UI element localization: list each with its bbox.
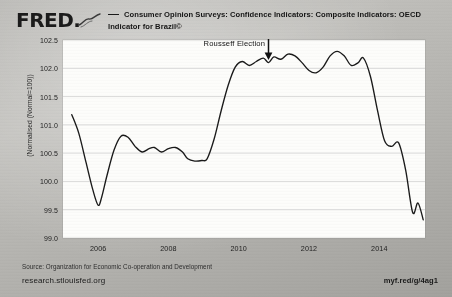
- short-url[interactable]: myf.red/g/4ag1: [384, 276, 438, 285]
- x-axis-tick-labels: 20062008201020122014: [0, 244, 452, 258]
- fred-chart-screenshot: FRED. Consumer Opinion Surveys: Confiden…: [0, 0, 452, 297]
- x-tick-label: 2012: [301, 244, 317, 253]
- horizontal-gridlines: [63, 40, 425, 238]
- x-tick-label: 2014: [371, 244, 387, 253]
- x-tick-label: 2008: [160, 244, 176, 253]
- series-line-brazil-confidence: [72, 51, 423, 220]
- annotation-label-rousseff-election: Rousseff Election: [204, 39, 266, 48]
- x-tick-label: 2006: [90, 244, 106, 253]
- line-chart-squiggle-icon: [78, 12, 102, 28]
- legend-series-label: Consumer Opinion Surveys: Confidence Ind…: [108, 10, 421, 31]
- source-note: Source: Organization for Economic Co-ope…: [22, 263, 212, 270]
- series-canvas: [63, 40, 425, 238]
- y-tick-label: 100.0: [24, 178, 58, 185]
- y-tick-label: 99.0: [24, 235, 58, 242]
- x-tick-label: 2010: [231, 244, 247, 253]
- site-url[interactable]: research.stlouisfed.org: [22, 276, 105, 285]
- y-tick-label: 100.5: [24, 150, 58, 157]
- legend-line-marker: [108, 14, 119, 15]
- y-tick-label: 102.5: [24, 37, 58, 44]
- down-arrow-icon: [264, 39, 273, 61]
- y-tick-label: 101.0: [24, 121, 58, 128]
- y-tick-label: 99.5: [24, 206, 58, 213]
- plot-area: [63, 40, 425, 238]
- y-tick-label: 102.0: [24, 65, 58, 72]
- chart-legend: Consumer Opinion Surveys: Confidence Ind…: [108, 9, 438, 32]
- y-tick-label: 101.5: [24, 93, 58, 100]
